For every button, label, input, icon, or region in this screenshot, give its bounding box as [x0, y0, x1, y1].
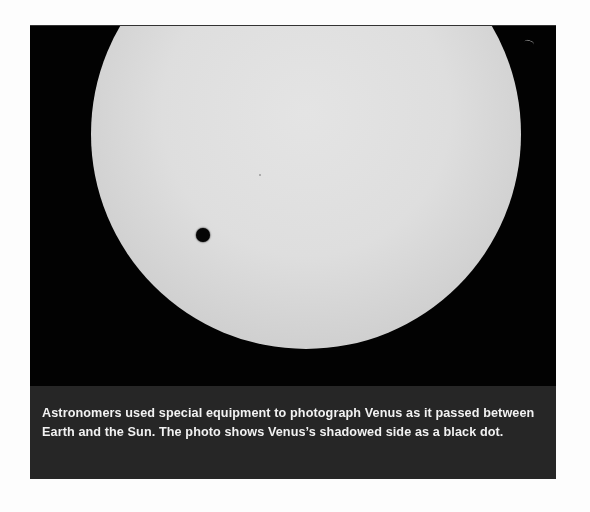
venus-dot: [196, 228, 210, 242]
venus-transit-photo: Astronomers used special equipment to ph…: [30, 25, 556, 479]
solar-prominence: [523, 39, 534, 48]
caption-text: Astronomers used special equipment to ph…: [42, 403, 549, 441]
sunspot-speck: [259, 174, 261, 176]
sun-disk: [91, 25, 521, 349]
caption-box: Astronomers used special equipment to ph…: [30, 386, 556, 479]
